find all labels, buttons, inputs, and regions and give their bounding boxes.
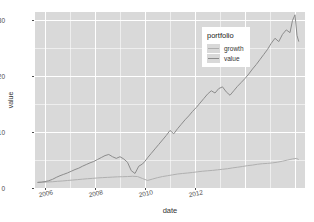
y-tick-label: 20	[0, 73, 5, 80]
x-tick-mark	[45, 188, 46, 190]
series-line-value	[38, 15, 299, 183]
series-line-growth	[38, 158, 299, 182]
legend: portfolio growthvalue	[202, 27, 250, 67]
x-tick-mark	[95, 188, 96, 190]
x-tick-mark	[195, 188, 196, 190]
legend-key-swatch	[207, 54, 220, 63]
legend-label: growth	[224, 45, 244, 52]
y-tick-label: 0	[1, 185, 5, 192]
y-tick-mark	[32, 76, 34, 77]
legend-item-value: value	[207, 53, 244, 63]
y-tick-label: 30	[0, 17, 5, 24]
plot-panel	[35, 12, 305, 188]
y-tick-mark	[32, 188, 34, 189]
legend-title: portfolio	[207, 31, 244, 40]
x-axis-title: date	[163, 206, 178, 215]
legend-items: growthvalue	[207, 43, 244, 63]
y-tick-mark	[32, 132, 34, 133]
chart-container: value date portfolio growthvalue 0102030…	[0, 0, 314, 222]
legend-key-swatch	[207, 44, 220, 53]
series-layer	[35, 12, 305, 188]
y-tick-mark	[32, 20, 34, 21]
legend-item-growth: growth	[207, 43, 244, 53]
legend-label: value	[224, 55, 240, 62]
y-axis-title: value	[7, 92, 14, 109]
y-tick-label: 10	[0, 129, 5, 136]
x-tick-mark	[145, 188, 146, 190]
